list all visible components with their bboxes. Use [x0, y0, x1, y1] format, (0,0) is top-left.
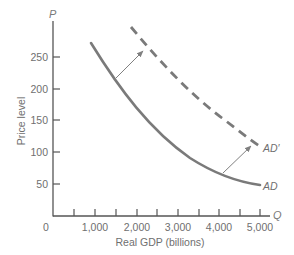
ad-label: AD [262, 180, 278, 192]
y-axis-title: Price level [15, 97, 27, 145]
x-axis-title: Real GDP (billions) [115, 236, 204, 248]
svg-text:100: 100 [30, 146, 48, 158]
shift-arrow-lower [223, 146, 251, 173]
svg-text:5,000: 5,000 [247, 221, 273, 233]
svg-text:200: 200 [30, 83, 48, 95]
y-tick-labels: 250 200 150 100 50 [30, 51, 48, 190]
svg-text:0: 0 [43, 221, 49, 233]
x-axis-symbol: Q [273, 209, 282, 221]
shift-arrow-upper [116, 51, 143, 78]
ad-curve [91, 43, 260, 185]
aggregate-demand-chart: P Q 250 200 150 100 50 0 1,000 2,000 3,0… [0, 0, 294, 255]
svg-text:1,000: 1,000 [82, 221, 108, 233]
y-axis-symbol: P [49, 8, 57, 20]
svg-text:150: 150 [30, 114, 48, 126]
svg-text:50: 50 [36, 178, 48, 190]
ad-prime-curve [131, 27, 261, 147]
y-ticks [53, 57, 60, 184]
svg-text:2,000: 2,000 [124, 221, 150, 233]
svg-text:4,000: 4,000 [206, 221, 232, 233]
svg-text:3,000: 3,000 [165, 221, 191, 233]
ad-prime-label: AD′ [262, 142, 281, 154]
svg-text:250: 250 [30, 51, 48, 63]
x-ticks [74, 209, 260, 216]
x-tick-labels: 0 1,000 2,000 3,000 4,000 5,000 [43, 221, 273, 233]
